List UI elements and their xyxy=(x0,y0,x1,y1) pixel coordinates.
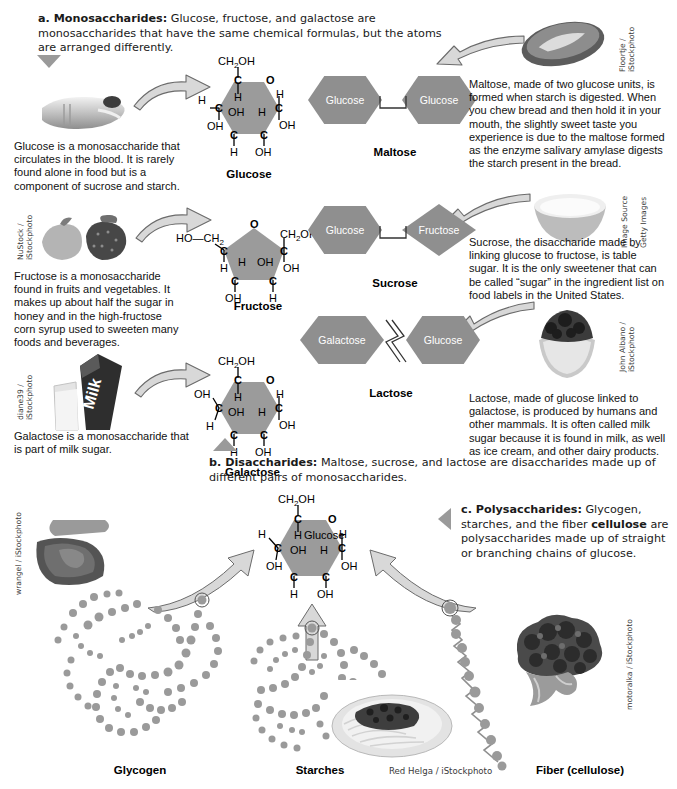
glucose-atom-right-c: C xyxy=(275,102,283,114)
glucose-atom-left-h: H xyxy=(198,94,206,106)
galactose-atom-top-c: C xyxy=(234,374,242,386)
galactose-atom-ch2oh: CH2OH xyxy=(218,355,255,370)
glucose-atom-bl-c: C xyxy=(230,129,238,141)
poly-glucose-atom-top-c: C xyxy=(294,513,302,525)
fructose-photo-credit: NuStock / iStockphoto xyxy=(16,215,35,260)
lactose-description: Lactose, made of glucose linked to galac… xyxy=(469,392,671,458)
glucose-atom-ch2oh: CH2OH xyxy=(218,55,255,70)
galactose-atom-left-oh: OH xyxy=(194,388,211,400)
fructose-label: Fructose xyxy=(213,300,303,312)
galactose-atom-right-c: C xyxy=(275,402,283,414)
galactose-photo: Milk xyxy=(46,352,134,434)
page-bottom-clipped-text xyxy=(0,782,677,789)
glucose-label: Glucose xyxy=(204,168,294,180)
lactose-unit-right-label: Glucose xyxy=(424,334,463,346)
glucose-atom-bl-h: H xyxy=(230,146,238,158)
fructose-atom-left-h: H xyxy=(220,262,228,274)
fructose-atom-right-oh: OH xyxy=(283,262,300,274)
poly-glucose-atom-bl-h: H xyxy=(290,588,298,600)
glucose-atom-left-c: C xyxy=(215,102,223,114)
glucose-atom-right-oh: OH xyxy=(279,119,296,131)
maltose-unit-right-label: Glucose xyxy=(420,94,459,106)
maltose-description: Maltose, made of two glucose units, is f… xyxy=(469,78,669,170)
starches-label: Starches xyxy=(255,764,385,776)
lactose-unit-left: Galactose xyxy=(300,316,384,364)
fructose-atom-inner-oh: OH xyxy=(257,256,274,268)
lactose-unit-left-label: Galactose xyxy=(318,334,365,346)
poly-glucose-atom-inner-h-top: H xyxy=(294,529,302,541)
glucose-atom-inner-h-mid: H xyxy=(258,106,266,118)
maltose-unit-left: Glucose xyxy=(308,76,382,124)
sucrose-label: Sucrose xyxy=(350,277,440,289)
fructose-description: Fructose is a monosaccharide found in fr… xyxy=(14,270,186,349)
poly-glucose-atom-right-h: H xyxy=(339,528,347,540)
section-a-pointer-triangle xyxy=(37,55,61,68)
glucose-atom-left-oh: OH xyxy=(207,120,224,132)
poly-glucose-atom-left-c: C xyxy=(274,542,282,554)
glucose-description: Glucose is a monosaccharide that circula… xyxy=(14,140,186,193)
starches-photo xyxy=(330,680,455,760)
galactose-atom-left-h: H xyxy=(206,420,214,432)
fiber-photo xyxy=(490,610,620,720)
glucose-atom-ring-o: O xyxy=(266,74,275,86)
galactose-atom-left-c: C xyxy=(215,402,223,414)
glycogen-photo-credit: wrangel / iStockphoto xyxy=(14,512,23,595)
sucrose-bond-icon xyxy=(378,224,408,244)
maltose-unit-left-label: Glucose xyxy=(326,94,365,106)
section-b-caption: b. Disaccharides: Maltose, sucrose, and … xyxy=(209,456,669,485)
poly-glucose-atom-right-c: C xyxy=(338,542,346,554)
section-a-marker: a. Monosaccharides: xyxy=(38,12,167,25)
sucrose-unit-right-label: Fructose xyxy=(419,224,460,236)
fructose-structure: HO—CH2 O CH2OH C H H OH C OH C OH C H xyxy=(186,214,316,310)
poly-glucose-atom-bl-c: C xyxy=(290,571,298,583)
maltose-bond-icon xyxy=(378,94,408,114)
galactose-atom-inner-oh: OH xyxy=(228,406,245,418)
galactose-atom-inner-h-top: H xyxy=(234,391,242,403)
section-b-pointer-triangle xyxy=(213,438,237,451)
glucose-atom-right-h: H xyxy=(276,88,284,100)
galactose-atom-inner-h-mid: H xyxy=(258,406,266,418)
poly-glucose-atom-ring-o: O xyxy=(328,513,337,525)
maltose-label: Maltose xyxy=(350,146,440,158)
maltose-arrow-icon xyxy=(432,30,528,70)
maltose-photo-credit: Floortje / iStockphoto xyxy=(618,27,637,72)
poly-glucose-atom-ch2oh: CH2OH xyxy=(278,493,315,508)
fructose-photo xyxy=(36,212,136,264)
glycogen-structure xyxy=(50,580,270,760)
section-a-caption: a. Monosaccharides: Glucose, fructose, a… xyxy=(38,12,458,56)
section-c-caption: c. Polysaccharides: Glycogen, starches, … xyxy=(461,503,673,561)
section-b-marker: b. Disaccharides: xyxy=(209,456,317,469)
sucrose-unit-left-label: Glucose xyxy=(326,224,365,236)
sucrose-description: Sucrose, the disaccharide made by linkin… xyxy=(469,236,669,302)
maltose-photo xyxy=(516,18,610,68)
sucrose-unit-left: Glucose xyxy=(308,206,382,254)
glucose-photo xyxy=(40,88,130,134)
fructose-atom-br-c: C xyxy=(269,275,277,287)
galactose-description: Galactose is a monosaccharide that is pa… xyxy=(14,430,189,456)
galactose-atom-ring-o: O xyxy=(266,374,275,386)
fructose-atom-ring-o: O xyxy=(250,218,259,230)
glucose-atom-br-oh: OH xyxy=(255,146,272,158)
fructose-atom-inner-h: H xyxy=(238,256,246,268)
poly-glucose-atom-br-oh: OH xyxy=(317,588,334,600)
poly-glucose-atom-br-c: C xyxy=(322,571,330,583)
fiber-label: Fiber (cellulose) xyxy=(500,764,660,776)
galactose-atom-br-c: C xyxy=(260,429,268,441)
fructose-atom-bl-c: C xyxy=(231,275,239,287)
glucose-atom-inner-oh: OH xyxy=(228,106,245,118)
glycogen-label: Glycogen xyxy=(50,764,230,776)
lactose-label: Lactose xyxy=(346,387,436,399)
fructose-atom-left-c: C xyxy=(220,245,228,257)
glucose-atom-br-c: C xyxy=(260,129,268,141)
lactose-bond-zigzag-icon xyxy=(380,318,410,364)
poly-glucose-atom-inner-oh: OH xyxy=(290,544,307,556)
glucose-atom-top-c: C xyxy=(234,74,242,86)
fructose-atom-ho-ch2: HO—CH2 xyxy=(176,232,224,247)
glucose-structure: CH2OH C O H C OH H OH H H C OH C H C OH xyxy=(186,62,306,172)
glucose-atom-inner-h-top: H xyxy=(234,91,242,103)
glycogen-photo xyxy=(25,520,115,588)
maltose-unit-right: Glucose xyxy=(402,76,476,124)
lactose-photo-credit: John Albano / iStockphoto xyxy=(618,322,637,372)
section-c-marker: c. Polysaccharides: xyxy=(461,503,582,516)
section-c-bold-cellulose: cellulose xyxy=(591,518,647,531)
